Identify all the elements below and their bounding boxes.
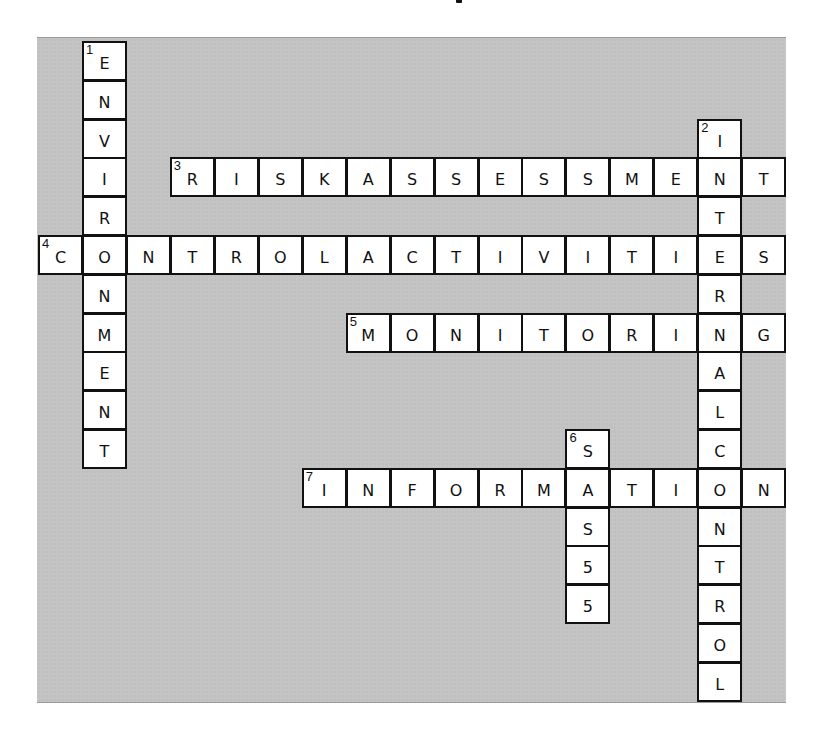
crossword-cell[interactable]: I [214, 157, 259, 197]
crossword-cell[interactable]: E [478, 157, 523, 197]
crossword-cell[interactable]: O [82, 235, 127, 275]
cell-letter: S [523, 170, 564, 190]
crossword-cell[interactable]: T [697, 545, 742, 585]
cell-letter: I [480, 248, 521, 268]
crossword-cell[interactable]: A [697, 351, 742, 391]
crossword-cell[interactable]: 7I [302, 468, 347, 508]
crossword-cell[interactable]: I [653, 313, 698, 353]
crossword-cell[interactable]: N [346, 468, 391, 508]
crossword-cell[interactable]: O [258, 235, 303, 275]
crossword-cell[interactable]: R [697, 584, 742, 624]
crossword-cell[interactable]: 3R [170, 157, 215, 197]
crossword-cell[interactable]: 1E [82, 41, 127, 81]
crossword-cell[interactable]: C [390, 235, 435, 275]
crossword-cell[interactable]: S [565, 157, 610, 197]
cell-letter: I [84, 170, 125, 190]
cell-letter: I [304, 481, 345, 501]
crossword-cell[interactable]: O [697, 468, 742, 508]
crossword-cell[interactable]: S [741, 235, 786, 275]
crossword-cell[interactable]: A [565, 468, 610, 508]
crossword-cell[interactable]: M [609, 157, 654, 197]
crossword-cell[interactable]: E [697, 235, 742, 275]
crossword-cell[interactable]: T [741, 157, 786, 197]
crossword-cell[interactable]: T [434, 235, 479, 275]
crossword-cell[interactable]: 4C [38, 235, 83, 275]
crossword-cell[interactable]: I [478, 313, 523, 353]
crossword-cell[interactable]: N [741, 468, 786, 508]
crossword-cell[interactable]: A [346, 157, 391, 197]
crossword-cell[interactable]: O [434, 468, 479, 508]
crossword-cell[interactable]: V [82, 119, 127, 159]
cell-letter: V [523, 248, 564, 268]
crossword-cell[interactable]: E [82, 351, 127, 391]
crossword-cell[interactable]: O [697, 623, 742, 663]
crossword-cell[interactable]: 2I [697, 119, 742, 159]
crossword-cell[interactable]: L [697, 662, 742, 702]
cell-letter: R [84, 209, 125, 229]
crossword-cell[interactable]: L [697, 390, 742, 430]
crossword-cell[interactable]: S [390, 157, 435, 197]
cell-letter: T [743, 170, 784, 190]
crossword-cell[interactable]: T [82, 429, 127, 469]
crossword-cell[interactable]: R [609, 313, 654, 353]
crossword-cell[interactable]: R [82, 196, 127, 236]
crossword-cell[interactable]: S [565, 507, 610, 547]
cell-letter: R [699, 597, 740, 617]
crossword-cell[interactable]: 5 [565, 584, 610, 624]
crossword-cell[interactable]: 5M [346, 313, 391, 353]
crossword-cell[interactable]: S [434, 157, 479, 197]
cell-letter: N [699, 326, 740, 346]
crossword-cell[interactable]: F [390, 468, 435, 508]
crossword-cell[interactable]: T [609, 235, 654, 275]
crossword-cell[interactable]: R [697, 274, 742, 314]
crossword-cell[interactable]: A [346, 235, 391, 275]
crossword-cell[interactable]: N [697, 507, 742, 547]
crossword-cell[interactable]: K [302, 157, 347, 197]
crossword-cell[interactable]: R [478, 468, 523, 508]
crossword-cell[interactable]: G [741, 313, 786, 353]
crossword-cell[interactable]: 5 [565, 545, 610, 585]
cell-letter: E [655, 170, 696, 190]
crossword-cell[interactable]: I [653, 235, 698, 275]
crossword-cell[interactable]: I [565, 235, 610, 275]
crossword-cell[interactable]: T [609, 468, 654, 508]
crossword-cell[interactable]: T [521, 313, 566, 353]
crossword-cell[interactable]: N [126, 235, 171, 275]
cell-letter: M [348, 326, 389, 346]
cell-letter: N [128, 248, 169, 268]
cell-letter: N [84, 287, 125, 307]
cell-letter: L [304, 248, 345, 268]
cell-letter: T [611, 481, 652, 501]
crossword-cell[interactable]: L [302, 235, 347, 275]
crossword-cell[interactable]: N [697, 313, 742, 353]
crossword-cell[interactable]: O [565, 313, 610, 353]
crossword-cell[interactable]: I [653, 468, 698, 508]
crossword-cell[interactable]: R [214, 235, 259, 275]
crossword-cell[interactable]: N [434, 313, 479, 353]
crossword-cell[interactable]: S [521, 157, 566, 197]
crossword-cell[interactable]: M [521, 468, 566, 508]
cell-letter: N [348, 481, 389, 501]
crossword-cell[interactable]: C [697, 429, 742, 469]
crossword-cell[interactable]: I [478, 235, 523, 275]
crossword-cell[interactable]: O [390, 313, 435, 353]
crossword-cell[interactable]: T [170, 235, 215, 275]
crossword-cell[interactable]: N [82, 390, 127, 430]
crossword-cell[interactable]: V [521, 235, 566, 275]
crossword-cell[interactable]: 6S [565, 429, 610, 469]
cell-letter: O [436, 481, 477, 501]
crossword-cell[interactable]: M [82, 313, 127, 353]
crossword-cell[interactable]: N [697, 157, 742, 197]
cell-letter: I [216, 170, 257, 190]
crossword-cell[interactable]: T [697, 196, 742, 236]
crossword-cell[interactable]: N [82, 274, 127, 314]
cell-letter: O [260, 248, 301, 268]
cell-letter: C [40, 248, 81, 268]
crossword-cell[interactable]: I [82, 157, 127, 197]
crossword-cell[interactable]: E [653, 157, 698, 197]
cell-letter: N [84, 403, 125, 423]
crossword-cell[interactable]: S [258, 157, 303, 197]
crossword-cell[interactable]: N [82, 80, 127, 120]
cell-letter: A [699, 364, 740, 384]
cell-letter: M [84, 326, 125, 346]
